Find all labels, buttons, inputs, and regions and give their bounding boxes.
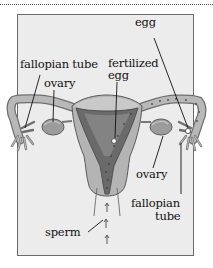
label-fallopian-tube-right-line1: fallopian <box>131 197 180 209</box>
label-fallopian-tube-left: fallopian tube <box>20 58 98 70</box>
reproductive-system-illustration <box>0 0 213 268</box>
left-ovary <box>42 119 72 135</box>
right-ovary <box>141 119 172 135</box>
egg-cell <box>185 128 190 133</box>
label-egg: egg <box>135 16 156 28</box>
diagram-page: egg fallopian tube ovary fertilized egg … <box>0 0 213 268</box>
sperm-arrows <box>104 203 109 244</box>
fertilized-egg-cell <box>112 139 117 144</box>
label-fertilized-egg-line2: egg <box>108 69 129 81</box>
label-ovary-left: ovary <box>44 77 75 89</box>
label-sperm: sperm <box>45 226 80 238</box>
label-ovary-right: ovary <box>136 168 167 180</box>
label-fallopian-tube-right-line2: tube <box>155 210 180 222</box>
